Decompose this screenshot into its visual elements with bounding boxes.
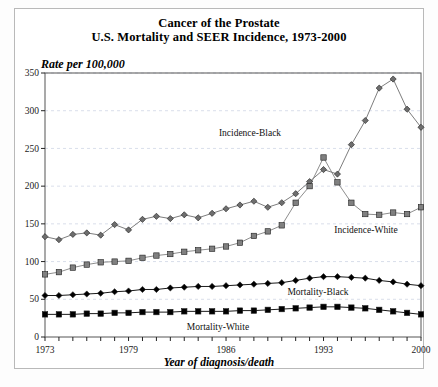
series-markers: [42, 76, 424, 317]
marker-mortality-black-1980: [139, 286, 145, 292]
marker-mortality-white-1983: [182, 309, 187, 314]
marker-mortality-black-1994: [334, 274, 340, 280]
marker-incidence-white-1993: [321, 155, 326, 160]
marker-incidence-black-1988: [251, 198, 257, 204]
marker-mortality-white-1995: [349, 305, 354, 310]
marker-incidence-white-1974: [56, 269, 61, 274]
marker-incidence-white-1990: [279, 223, 284, 228]
marker-incidence-white-1982: [168, 251, 173, 256]
marker-incidence-white-1997: [377, 212, 382, 217]
marker-mortality-white-1998: [390, 309, 395, 314]
marker-incidence-white-1976: [84, 262, 89, 267]
marker-mortality-black-1984: [195, 283, 201, 289]
x-tick-label-1979: 1979: [119, 345, 138, 355]
marker-incidence-white-1986: [223, 244, 228, 249]
y-tick-label-100: 100: [25, 257, 40, 267]
marker-incidence-white-2000: [418, 205, 423, 210]
marker-incidence-white-1991: [293, 200, 298, 205]
marker-incidence-white-1980: [140, 255, 145, 260]
marker-mortality-black-1993: [320, 274, 326, 280]
marker-incidence-white-1999: [404, 211, 409, 216]
marker-mortality-white-1981: [154, 309, 159, 314]
y-tick-label-0: 0: [34, 332, 39, 342]
y-tick-label-350: 350: [25, 68, 40, 78]
marker-mortality-black-1981: [153, 286, 159, 292]
y-tick-label-50: 50: [30, 294, 40, 304]
marker-incidence-black-1996: [362, 117, 368, 123]
marker-mortality-white-1988: [251, 308, 256, 313]
marker-mortality-black-1999: [404, 281, 410, 287]
series-annotation-mortality-white: Mortality-White: [187, 322, 249, 332]
marker-incidence-black-1984: [195, 215, 201, 221]
marker-incidence-white-1983: [182, 249, 187, 254]
marker-mortality-white-2000: [418, 312, 423, 317]
marker-mortality-black-1979: [125, 288, 131, 294]
y-tick-label-150: 150: [25, 219, 40, 229]
marker-mortality-black-1990: [279, 280, 285, 286]
marker-mortality-white-1984: [195, 309, 200, 314]
marker-mortality-white-1994: [335, 304, 340, 309]
marker-mortality-black-1986: [223, 283, 229, 289]
marker-mortality-black-1989: [265, 280, 271, 286]
plot-area: 050100150200250300350 197319791986199320…: [0, 0, 438, 387]
marker-mortality-white-1976: [84, 311, 89, 316]
marker-incidence-black-1982: [167, 215, 173, 221]
marker-incidence-black-1994: [334, 171, 340, 177]
marker-mortality-black-1978: [112, 289, 118, 295]
marker-mortality-black-1974: [56, 292, 62, 298]
marker-incidence-black-1987: [237, 202, 243, 208]
marker-incidence-black-1976: [84, 230, 90, 236]
y-tick-label-300: 300: [25, 106, 40, 116]
x-tick-label-1986: 1986: [217, 345, 236, 355]
x-tick-label-1973: 1973: [36, 345, 55, 355]
marker-incidence-white-1984: [195, 248, 200, 253]
marker-mortality-white-1980: [140, 309, 145, 314]
marker-incidence-black-1974: [56, 237, 62, 243]
marker-mortality-black-1987: [237, 282, 243, 288]
marker-incidence-black-1983: [181, 212, 187, 218]
chart-figure: Cancer of the Prostate U.S. Mortality an…: [0, 0, 438, 387]
marker-mortality-black-1992: [306, 275, 312, 281]
series-annotation-incidence-black: Incidence-Black: [219, 128, 281, 138]
marker-incidence-white-1981: [154, 253, 159, 258]
marker-incidence-white-1988: [251, 233, 256, 238]
marker-mortality-black-1975: [70, 292, 76, 298]
marker-incidence-white-1989: [265, 229, 270, 234]
marker-mortality-white-1985: [209, 309, 214, 314]
marker-mortality-white-1986: [223, 309, 228, 314]
marker-mortality-black-1995: [348, 274, 354, 280]
series-annotations: Incidence-BlackIncidence-WhiteMortality-…: [187, 128, 398, 332]
x-tick-label-2000: 2000: [412, 345, 431, 355]
marker-mortality-black-1996: [362, 275, 368, 281]
marker-incidence-white-1973: [42, 272, 47, 277]
marker-incidence-black-1985: [209, 210, 215, 216]
marker-incidence-black-1973: [42, 234, 48, 240]
y-tick-label-250: 250: [25, 144, 40, 154]
marker-incidence-black-1981: [153, 213, 159, 219]
marker-mortality-black-1973: [42, 292, 48, 298]
marker-mortality-white-1977: [98, 311, 103, 316]
marker-mortality-white-1993: [321, 304, 326, 309]
marker-mortality-white-1975: [70, 312, 75, 317]
marker-incidence-white-1987: [237, 240, 242, 245]
marker-mortality-white-1974: [56, 312, 61, 317]
marker-incidence-black-1995: [348, 142, 354, 148]
marker-mortality-black-1998: [390, 279, 396, 285]
marker-incidence-black-1986: [223, 206, 229, 212]
x-axis-ticks: 19731979198619932000: [36, 337, 431, 355]
y-tick-label-200: 200: [25, 181, 40, 191]
marker-incidence-white-1998: [390, 210, 395, 215]
marker-mortality-white-1992: [307, 305, 312, 310]
marker-incidence-white-1979: [126, 258, 131, 263]
plot-frame: [45, 73, 421, 337]
marker-mortality-white-1999: [404, 310, 409, 315]
y-axis-ticks: 050100150200250300350: [25, 68, 45, 342]
marker-mortality-black-1983: [181, 284, 187, 290]
x-tick-label-1993: 1993: [314, 345, 333, 355]
gridlines: [45, 73, 421, 299]
marker-incidence-white-1975: [70, 265, 75, 270]
marker-incidence-black-1998: [390, 76, 396, 82]
marker-mortality-white-1997: [377, 307, 382, 312]
marker-mortality-white-1978: [112, 310, 117, 315]
marker-mortality-white-1979: [126, 310, 131, 315]
